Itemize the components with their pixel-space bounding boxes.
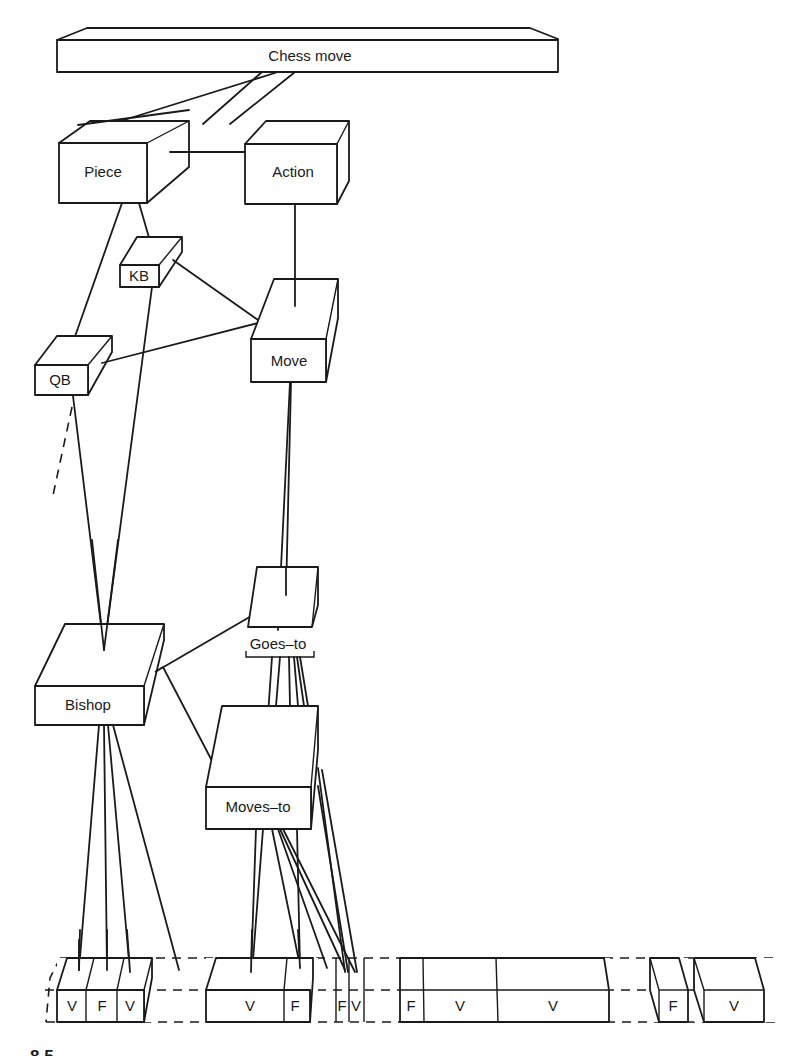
node-moves-to: Moves–to xyxy=(206,706,318,829)
move-label: Move xyxy=(271,352,308,369)
bottom-group-6: V xyxy=(694,958,776,1022)
edge-piece-qb xyxy=(72,203,122,345)
cell-f: F xyxy=(97,997,106,1014)
chess-move-label: Chess move xyxy=(268,47,351,64)
edge-action-inner xyxy=(203,72,262,124)
node-action: Action xyxy=(245,121,349,204)
semantic-network-diagram: Chess move Piece Action KB QB xyxy=(0,0,792,1056)
cell-f: F xyxy=(406,997,415,1014)
cell-f: F xyxy=(337,997,346,1014)
moves-to-label: Moves–to xyxy=(225,798,290,815)
cell-f: F xyxy=(290,997,299,1014)
cell-v: V xyxy=(455,997,465,1014)
cell-v: V xyxy=(67,997,77,1014)
cell-v: V xyxy=(548,997,558,1014)
edges-movesto-bottom xyxy=(251,829,355,972)
dashed-continuation xyxy=(52,407,72,500)
action-label: Action xyxy=(272,163,314,180)
piece-label: Piece xyxy=(84,163,122,180)
bishop-label: Bishop xyxy=(65,696,111,713)
cell-f: F xyxy=(668,997,677,1014)
bottom-group-5: F xyxy=(650,958,688,1022)
cell-v: V xyxy=(351,997,361,1014)
edge-kb-move xyxy=(173,260,258,320)
kb-label: KB xyxy=(129,267,149,284)
goes-to-label: Goes–to xyxy=(250,635,307,652)
bottom-group-2: V F xyxy=(206,958,318,1022)
node-chess-move: Chess move xyxy=(57,28,558,72)
edges-bishop-bottom xyxy=(79,725,179,972)
node-qb: QB xyxy=(35,336,112,395)
cell-v: V xyxy=(125,997,135,1014)
figure-label-partial: 8.5 xyxy=(30,1046,54,1056)
node-piece: Piece xyxy=(59,121,189,203)
edge-chessmove-action xyxy=(230,72,295,124)
edges-goesto-bottom xyxy=(318,768,357,972)
node-goes-to: Goes–to xyxy=(240,567,320,657)
edge-qb-move xyxy=(102,323,258,363)
cell-v: V xyxy=(729,997,739,1014)
bottom-group-1: V F V xyxy=(57,958,153,1022)
node-bishop: Bishop xyxy=(35,624,164,725)
qb-label: QB xyxy=(49,371,71,388)
cell-v: V xyxy=(245,997,255,1014)
node-kb: KB xyxy=(120,237,182,287)
bottom-group-4: F V V xyxy=(400,958,610,1022)
